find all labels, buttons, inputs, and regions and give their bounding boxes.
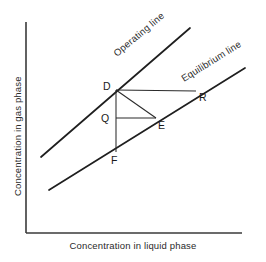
point-label-r: R (199, 91, 207, 103)
point-label-e: E (158, 119, 165, 131)
construction-line-dr (116, 90, 196, 91)
point-label-q: Q (101, 112, 109, 124)
y-axis-title: Concentration in gas phase (12, 0, 23, 196)
equilibrium-line (49, 68, 245, 190)
operating-line-label: Operating line (111, 10, 166, 59)
x-axis-title: Concentration in liquid phase (0, 240, 266, 251)
point-label-d: D (103, 80, 111, 92)
construction-line-de (116, 90, 156, 118)
equilibrium-line-label: Equilibrium line (179, 38, 243, 84)
plot-canvas: Operating line Equilibrium line D Q E F … (0, 0, 266, 262)
mass-transfer-driving-force-diagram: Operating line Equilibrium line D Q E F … (0, 0, 266, 262)
point-label-f: F (111, 154, 117, 166)
